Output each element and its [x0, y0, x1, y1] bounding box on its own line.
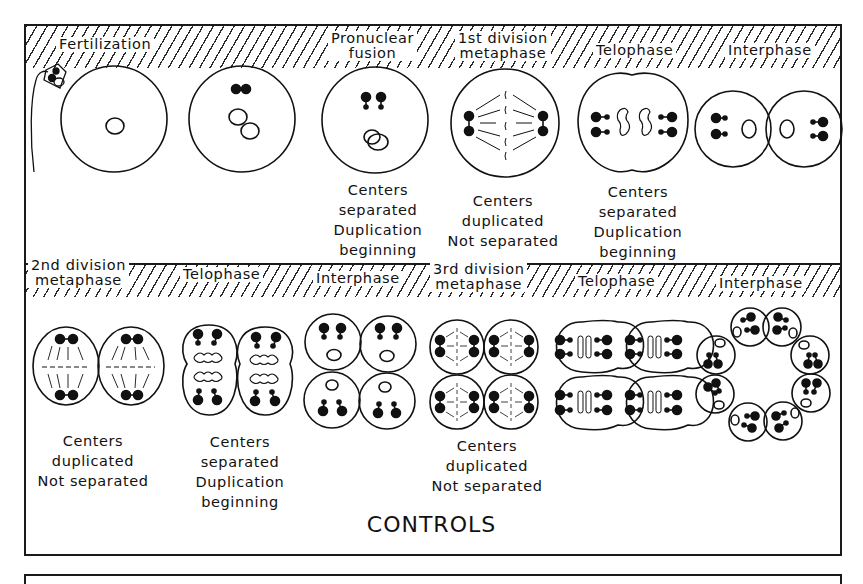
egg-cell-fertilization — [61, 66, 167, 172]
cell-3rd-division-metaphase — [430, 320, 538, 429]
cell-1st-division-metaphase — [451, 69, 559, 177]
cell-interphase-1 — [695, 91, 842, 167]
cell-interphase-3 — [696, 308, 830, 441]
cell-telophase-2 — [183, 325, 293, 415]
egg-cell-pronuclear-fusion — [322, 67, 428, 173]
cell-telophase-3 — [556, 321, 714, 430]
cell-2nd-division-metaphase — [33, 327, 164, 405]
egg-cell-pronuclei — [189, 66, 295, 172]
cell-interphase-2 — [304, 314, 416, 429]
cell-telophase-1 — [578, 73, 688, 172]
